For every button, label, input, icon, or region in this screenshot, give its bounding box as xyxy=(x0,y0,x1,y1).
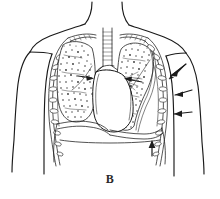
figure-root: B xyxy=(0,0,220,199)
thorax-illustration xyxy=(0,0,220,199)
panel-label: B xyxy=(0,172,220,186)
right-lung-group xyxy=(57,42,95,122)
